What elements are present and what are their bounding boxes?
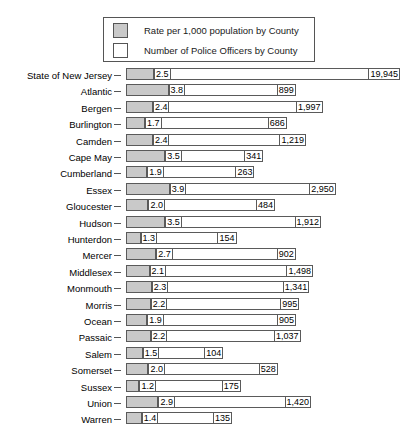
bar-rate — [126, 396, 158, 408]
chart-row: Morris2.2995 — [0, 298, 418, 316]
axis-tick — [114, 419, 121, 420]
row-label-mercer: Mercer — [82, 249, 112, 262]
chart-row: Warren1.4135 — [0, 412, 418, 430]
row-label-gloucester: Gloucester — [66, 200, 112, 213]
chart-row: Union2.91,420 — [0, 396, 418, 414]
chart-row: Hudson3.51,912 — [0, 216, 418, 234]
value-label-officer-count: 263 — [235, 166, 254, 178]
legend-label-rate: Rate per 1,000 population by County — [144, 25, 299, 36]
value-label-rate: 1.9 — [147, 314, 164, 326]
chart-row: Camden2.41,219 — [0, 134, 418, 152]
row-label-essex: Essex — [86, 184, 112, 197]
bar-rate — [126, 265, 150, 277]
row-label-sussex: Sussex — [81, 381, 112, 394]
row-label-warren: Warren — [81, 413, 112, 426]
axis-tick — [114, 190, 121, 191]
bar-rate — [126, 84, 169, 96]
value-label-rate: 2.0 — [148, 363, 165, 375]
value-label-rate: 2.4 — [153, 134, 170, 146]
chart-row: Ocean1.9905 — [0, 314, 418, 332]
bar-rate — [126, 199, 148, 211]
bar-rate — [126, 363, 148, 375]
value-label-rate: 1.4 — [142, 412, 159, 424]
chart-row: Passaic2.21,037 — [0, 330, 418, 348]
value-label-officer-count: 484 — [256, 199, 275, 211]
bar-rate — [126, 166, 147, 178]
chart-row: Salem1.5104 — [0, 347, 418, 365]
axis-tick — [114, 124, 121, 125]
row-label-ocean: Ocean — [84, 315, 112, 328]
value-label-officer-count: 104 — [204, 347, 223, 359]
row-label-morris: Morris — [86, 299, 112, 312]
legend-item-rate: Rate per 1,000 population by County — [104, 20, 314, 40]
axis-tick — [114, 387, 121, 388]
value-label-officer-count: 686 — [268, 117, 287, 129]
row-label-union: Union — [87, 397, 112, 410]
chart-row: Hunterdon1.3154 — [0, 232, 418, 250]
value-label-officer-count: 902 — [277, 248, 296, 260]
value-label-rate: 2.2 — [151, 330, 168, 342]
bar-rate — [126, 117, 145, 129]
bar-rate — [126, 183, 170, 195]
value-label-rate: 3.5 — [165, 216, 182, 228]
value-label-rate: 2.7 — [156, 248, 173, 260]
chart-row: Middlesex2.11,498 — [0, 265, 418, 283]
axis-tick — [114, 108, 121, 109]
axis-tick — [114, 288, 121, 289]
value-label-officer-count: 19,945 — [368, 68, 400, 80]
value-label-rate: 2.4 — [153, 101, 170, 113]
chart-row: Somerset2.0528 — [0, 363, 418, 381]
chart-row: Mercer2.7902 — [0, 248, 418, 266]
row-label-salem: Salem — [85, 348, 112, 361]
axis-tick — [114, 75, 121, 76]
bar-rate — [126, 232, 141, 244]
axis-tick — [114, 370, 121, 371]
value-label-officer-count: 2,950 — [309, 183, 336, 195]
value-label-rate: 1.7 — [145, 117, 162, 129]
value-label-rate: 2.3 — [152, 281, 169, 293]
chart-row: Burlington1.7686 — [0, 117, 418, 135]
value-label-rate: 1.3 — [141, 232, 158, 244]
bar-rate — [126, 248, 156, 260]
axis-tick — [114, 272, 121, 273]
chart-row: Essex3.92,950 — [0, 183, 418, 201]
value-label-officer-count: 1,037 — [274, 330, 301, 342]
axis-tick — [114, 91, 121, 92]
bar-rate — [126, 412, 142, 424]
row-label-camden: Camden — [76, 135, 112, 148]
axis-tick — [114, 403, 121, 404]
value-label-officer-count: 1,997 — [296, 101, 323, 113]
bar-rate — [126, 314, 147, 326]
value-label-rate: 2.2 — [151, 298, 168, 310]
axis-tick — [114, 305, 121, 306]
bar-rate — [126, 68, 154, 80]
value-label-officer-count: 528 — [259, 363, 278, 375]
value-label-rate: 3.8 — [169, 84, 186, 96]
row-label-burlington: Burlington — [69, 118, 112, 131]
value-label-officer-count: 135 — [213, 412, 232, 424]
axis-tick — [114, 206, 121, 207]
value-label-officer-count: 899 — [277, 84, 296, 96]
axis-tick — [114, 239, 121, 240]
bar-rate — [126, 380, 139, 392]
value-label-officer-count: 1,341 — [283, 281, 310, 293]
axis-tick — [114, 173, 121, 174]
axis-tick — [114, 157, 121, 158]
bar-rate — [126, 330, 151, 342]
row-label-somerset: Somerset — [71, 364, 112, 377]
axis-tick — [114, 321, 121, 322]
value-label-officer-count: 175 — [222, 380, 241, 392]
chart-row: Cape May3.5341 — [0, 150, 418, 168]
value-label-officer-count: 1,420 — [285, 396, 312, 408]
value-label-rate: 1.5 — [143, 347, 160, 359]
bar-rate — [126, 347, 143, 359]
value-label-rate: 2.1 — [150, 265, 167, 277]
bar-rate — [126, 101, 153, 113]
bar-rate — [126, 134, 153, 146]
row-label-bergen: Bergen — [81, 102, 112, 115]
row-label-atlantic: Atlantic — [81, 85, 112, 98]
bar-rate — [126, 298, 151, 310]
chart-legend: Rate per 1,000 population by County Numb… — [103, 17, 315, 62]
axis-tick — [114, 223, 121, 224]
row-label-hunterdon: Hunterdon — [68, 233, 112, 246]
